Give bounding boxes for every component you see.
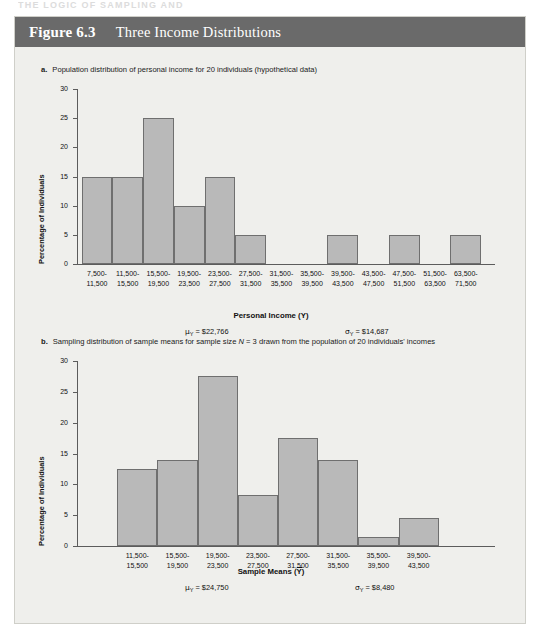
y-tick-label: 10 [60,202,68,209]
y-tick: 0 [73,546,77,547]
figure-page: THE LOGIC OF SAMPLING AND Figure 6.3 Thr… [0,0,549,644]
histogram-bar [450,235,481,264]
y-tick-label: 0 [64,260,68,267]
panel-a-mean-stat: μY = $22,766 [185,327,229,337]
y-tick-label: 0 [64,542,68,549]
y-tick-label: 10 [60,480,68,487]
panel-b-caption-text-2: = 3 drawn from the population of 20 indi… [244,337,435,346]
histogram-bar [399,518,439,546]
histogram-bar [318,460,358,546]
y-tick: 5 [73,235,77,236]
panel-a-x-axis [77,264,495,265]
panel-b-bars [77,361,495,546]
x-tick-label-line: 39,500- [384,551,452,561]
histogram-bar [82,177,113,265]
panel-b-mean-value: = $24,750 [196,583,229,592]
y-tick: 20 [73,423,77,424]
y-tick: 25 [73,392,77,393]
histogram-bar [205,177,236,265]
histogram-bar [389,235,420,264]
panel-b-x-axis-title-pre: Sample Means ( [238,567,297,576]
panel-b-caption-text-1: Sampling distribution of sample means fo… [53,337,239,346]
figure-number: Figure 6.3 [29,24,96,41]
panel-b-x-axis-title: Sample Means (Y) [15,567,527,576]
histogram-bar [112,177,143,265]
y-tick-label: 25 [60,114,68,121]
y-tick: 20 [73,147,77,148]
panel-b-sd-stat: σY = $8,480 [355,583,394,593]
panel-a-bullet: a. [41,65,47,74]
y-tick: 15 [73,177,77,178]
panel-a-sd-stat: σY = $14,687 [345,327,389,337]
figure-title: Three Income Distributions [116,24,281,41]
histogram-bar [238,495,278,546]
y-tick: 5 [73,515,77,516]
histogram-bar [157,460,197,546]
chart-panel-a: Percentage of Individuals 051015202530 7… [77,89,495,264]
panel-b-y-axis-label: Percentage of Individuals [37,456,46,546]
y-tick: 25 [73,118,77,119]
histogram-bar [198,376,238,546]
panel-b-sd-subscript: Y [360,587,364,593]
panel-a-sd-value: = $14,687 [355,327,388,336]
histogram-bar [278,438,318,546]
y-tick: 15 [73,454,77,455]
histogram-bar [327,235,358,264]
panel-a-y-axis-label: Percentage of Individuals [37,174,46,264]
y-tick-label: 30 [60,357,68,364]
y-tick-label: 25 [60,388,68,395]
panel-a-mean-value: = $22,766 [196,327,229,336]
panel-a-caption: a.Population distribution of personal in… [41,65,317,74]
y-tick: 30 [73,89,77,90]
y-tick-label: 5 [64,511,68,518]
panel-b-sd-value: = $8,480 [365,583,394,592]
figure-header: Figure 6.3 Three Income Distributions [15,17,525,47]
chart-panel-b: Percentage of Individuals 051015202530 1… [77,361,495,546]
y-tick-label: 15 [60,173,68,180]
panel-b-x-axis-title-post: ) [302,567,305,576]
y-tick: 10 [73,484,77,485]
panel-a-bars [77,89,495,264]
y-tick-label: 30 [60,85,68,92]
histogram-bar [117,469,157,546]
y-tick-label: 15 [60,450,68,457]
histogram-bar [143,118,174,264]
panel-b-mean-subscript: Y [190,587,194,593]
panel-a-caption-text: Population distribution of personal inco… [52,65,317,74]
figure-container: Figure 6.3 Three Income Distributions a.… [14,16,526,624]
running-head-text: THE LOGIC OF SAMPLING AND [18,0,528,14]
y-tick: 0 [73,264,77,265]
x-tick-label-line: 71,500 [440,279,492,289]
panel-b-bullet: b. [41,337,48,346]
histogram-bar [174,206,205,264]
y-tick-label: 5 [64,231,68,238]
y-tick-label: 20 [60,419,68,426]
x-tick-label-line: 63,500- [440,269,492,279]
y-tick: 10 [73,206,77,207]
histogram-bar [235,235,266,264]
x-tick-label: 63,500-71,500 [440,269,492,288]
histogram-bar [358,537,398,546]
panel-a-x-axis-title: Personal Income (Y) [15,311,527,320]
panel-b-mean-stat: μY = $24,750 [185,583,229,593]
panel-b-x-axis [77,546,495,547]
y-tick-label: 20 [60,143,68,150]
panel-b-caption: b.Sampling distribution of sample means … [41,337,435,346]
y-tick: 30 [73,361,77,362]
